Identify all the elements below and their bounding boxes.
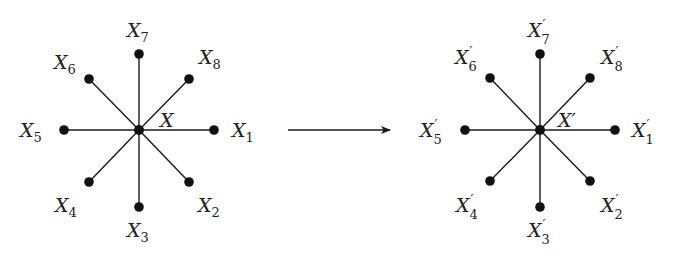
label-X2p: X′2 [599, 192, 623, 222]
node-X8p [585, 73, 595, 83]
label-X2: X2 [196, 194, 220, 220]
node-X5p [460, 125, 470, 135]
label-X1: X1 [230, 119, 254, 145]
left-center-node [134, 125, 144, 135]
label-X3: X3 [125, 219, 149, 245]
node-X2 [184, 177, 194, 187]
edge-X2p [540, 130, 590, 181]
label-X3p: X′3 [526, 217, 550, 247]
left-center-label: X [158, 109, 175, 131]
label-X5p: X′5 [418, 117, 442, 147]
label-X4: X4 [53, 194, 77, 220]
node-X3 [134, 202, 144, 212]
label-X1p: X′1 [630, 117, 654, 147]
right-center-node [535, 125, 545, 135]
edge-X4 [89, 130, 139, 182]
node-X2p [585, 176, 595, 186]
node-X6 [84, 74, 94, 84]
node-X7 [134, 49, 144, 59]
node-X6p [485, 73, 495, 83]
node-X4p [485, 176, 495, 186]
label-X8p: X′8 [599, 44, 623, 74]
label-X5: X5 [18, 119, 42, 145]
node-X5 [59, 125, 69, 135]
right-center-label: X′ [556, 109, 577, 131]
edge-X6p [490, 78, 540, 130]
edge-X6 [89, 79, 139, 130]
edge-X4p [490, 130, 540, 181]
node-X1p [610, 125, 620, 135]
node-X7p [535, 49, 545, 59]
right-star-graph: X′1X′2X′3X′4X′5X′6X′7X′8X′ [418, 17, 654, 247]
left-star-graph: X1X2X3X4X5X6X7X8X [18, 19, 254, 245]
label-X4p: X′4 [454, 192, 478, 222]
label-X7: X7 [125, 19, 149, 45]
node-X3p [535, 202, 545, 212]
label-X6: X6 [52, 51, 76, 77]
label-X6p: X′6 [453, 44, 477, 74]
label-X7p: X′7 [526, 17, 550, 47]
star-mapping-diagram: X1X2X3X4X5X6X7X8X X′1X′2X′3X′4X′5X′6X′7X… [0, 0, 675, 257]
edge-X2 [139, 130, 189, 182]
label-X8: X8 [197, 46, 221, 72]
node-X4 [84, 177, 94, 187]
node-X8 [184, 74, 194, 84]
node-X1 [209, 125, 219, 135]
